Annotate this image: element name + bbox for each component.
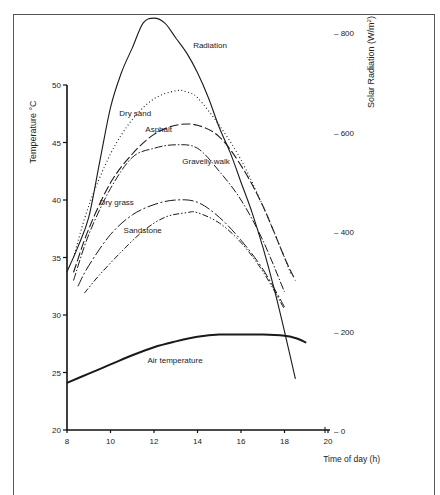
y2-tick-label: – 0 (334, 427, 346, 436)
label-sandstone: Sandstone (124, 226, 163, 235)
x-axis-label: Time of day (h) (323, 454, 380, 464)
label-gravelly-walk: Gravelly walk (182, 157, 231, 166)
series-labels: RadiationDry sandAsphaltGravelly walkDry… (100, 41, 231, 365)
x-tick-label: 16 (237, 437, 246, 446)
x-tick-label: 14 (193, 437, 202, 446)
y-tick-label: 20 (52, 426, 61, 435)
y-tick-label: 30 (52, 311, 61, 320)
y-tick-label: 40 (52, 196, 61, 205)
y2-tick-label: – 400 (334, 228, 355, 237)
axes: 202530354045508101214161820– 0– 200– 400… (52, 29, 354, 446)
y2-tick-label: – 200 (334, 328, 355, 337)
y-tick-label: 35 (52, 254, 61, 263)
label-dry-grass: Dry grass (100, 198, 134, 207)
y-tick-label: 45 (52, 139, 61, 148)
y-tick-label: 50 (52, 81, 61, 90)
label-asphalt: Asphalt (145, 125, 172, 134)
x-tick-label: 20 (324, 437, 333, 446)
series-sandstone-line (84, 212, 284, 310)
label-air-temperature: Air temperature (147, 356, 203, 365)
series-dry-sand-line (74, 90, 292, 274)
x-tick-label: 12 (150, 437, 159, 446)
y2-tick-label: – 600 (334, 129, 355, 138)
x-tick-label: 8 (65, 437, 70, 446)
label-radiation: Radiation (193, 41, 227, 50)
y-axis-label: Temperature °C (28, 100, 38, 164)
series-gravelly-walk-line (74, 145, 285, 292)
label-dry-sand: Dry sand (119, 109, 151, 118)
y2-axis-label: Solar Radiation (W/m2) (366, 16, 376, 108)
y2-tick-label: – 800 (334, 29, 355, 38)
y-tick-label: 25 (52, 369, 61, 378)
x-tick-label: 10 (106, 437, 115, 446)
x-tick-label: 18 (280, 437, 289, 446)
